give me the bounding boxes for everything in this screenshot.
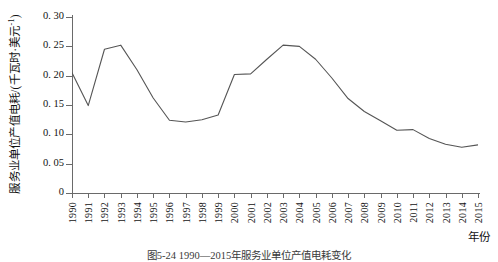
x-tick-0 [72, 193, 73, 198]
x-tick-20 [397, 193, 398, 198]
y-tick-label-6: 0. 30 [20, 10, 64, 21]
x-tick-4 [137, 193, 138, 198]
x-tick-label-18: 2008 [359, 202, 370, 223]
x-tick-17 [348, 193, 349, 198]
x-tick-label-13: 2003 [278, 202, 289, 223]
x-axis-title: 年份 [468, 228, 490, 244]
y-tick-label-1: 0. 05 [20, 157, 64, 168]
x-tick-10 [234, 193, 235, 198]
y-tick-label-4: 0. 20 [20, 69, 64, 80]
x-tick-label-22: 2012 [424, 202, 435, 223]
x-tick-label-9: 1999 [213, 202, 224, 223]
x-tick-label-11: 2001 [246, 202, 257, 223]
x-tick-9 [218, 193, 219, 198]
x-axis-line [72, 193, 480, 194]
x-tick-25 [478, 193, 479, 198]
x-tick-label-8: 1998 [197, 202, 208, 223]
x-tick-label-16: 2006 [327, 202, 338, 223]
x-tick-label-1: 1991 [83, 202, 94, 223]
x-tick-2 [104, 193, 105, 198]
x-tick-16 [332, 193, 333, 198]
y-tick-label-2: 0. 10 [20, 127, 64, 138]
x-tick-label-12: 2002 [262, 202, 273, 223]
x-tick-label-15: 2005 [311, 202, 322, 223]
x-tick-22 [429, 193, 430, 198]
x-tick-label-0: 1990 [67, 202, 78, 223]
x-tick-label-2: 1992 [99, 202, 110, 223]
x-tick-label-20: 2010 [392, 202, 403, 223]
x-tick-18 [364, 193, 365, 198]
x-tick-5 [153, 193, 154, 198]
figure-caption: 图5-24 1990—2015年服务业单位产值电耗变化 [0, 247, 498, 262]
y-tick-label-0: 0 [20, 186, 64, 197]
x-tick-12 [267, 193, 268, 198]
x-tick-label-7: 1997 [181, 202, 192, 223]
x-tick-label-24: 2014 [457, 202, 468, 223]
x-tick-11 [251, 193, 252, 198]
x-tick-label-21: 2011 [408, 202, 419, 223]
x-tick-label-4: 1994 [132, 202, 143, 223]
x-tick-14 [299, 193, 300, 198]
x-tick-label-10: 2000 [229, 202, 240, 223]
x-tick-label-3: 1993 [116, 202, 127, 223]
y-axis-title-text: 服务业单位产值电耗/(千瓦时·美元 [9, 25, 21, 193]
x-tick-3 [121, 193, 122, 198]
x-tick-15 [316, 193, 317, 198]
x-tick-label-14: 2004 [294, 202, 305, 223]
x-tick-label-19: 2009 [376, 202, 387, 223]
x-tick-label-25: 2015 [473, 202, 484, 223]
x-tick-21 [413, 193, 414, 198]
x-tick-13 [283, 193, 284, 198]
x-tick-6 [169, 193, 170, 198]
series-polyline [72, 45, 478, 147]
plot-area [72, 17, 478, 193]
x-tick-19 [381, 193, 382, 198]
y-tick-label-3: 0. 15 [20, 98, 64, 109]
x-tick-1 [88, 193, 89, 198]
x-tick-label-6: 1996 [164, 202, 175, 223]
x-tick-24 [462, 193, 463, 198]
x-tick-7 [186, 193, 187, 198]
data-series-line [72, 17, 478, 193]
y-axis-title-superscript: -1 [7, 18, 16, 25]
y-tick-label-5: 0. 25 [20, 39, 64, 50]
x-tick-label-5: 1995 [148, 202, 159, 223]
x-tick-23 [446, 193, 447, 198]
x-tick-label-23: 2013 [441, 202, 452, 223]
x-tick-label-17: 2007 [343, 202, 354, 223]
x-tick-8 [202, 193, 203, 198]
